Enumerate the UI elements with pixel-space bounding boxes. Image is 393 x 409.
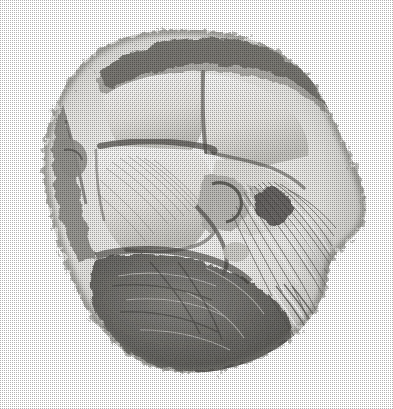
- specimen-artwork: [0, 0, 393, 409]
- illustration-plate: Anatomical Specimen cranial specimen, la…: [0, 0, 393, 409]
- specimen-figure: [0, 0, 393, 409]
- specimen-body: [0, 0, 393, 409]
